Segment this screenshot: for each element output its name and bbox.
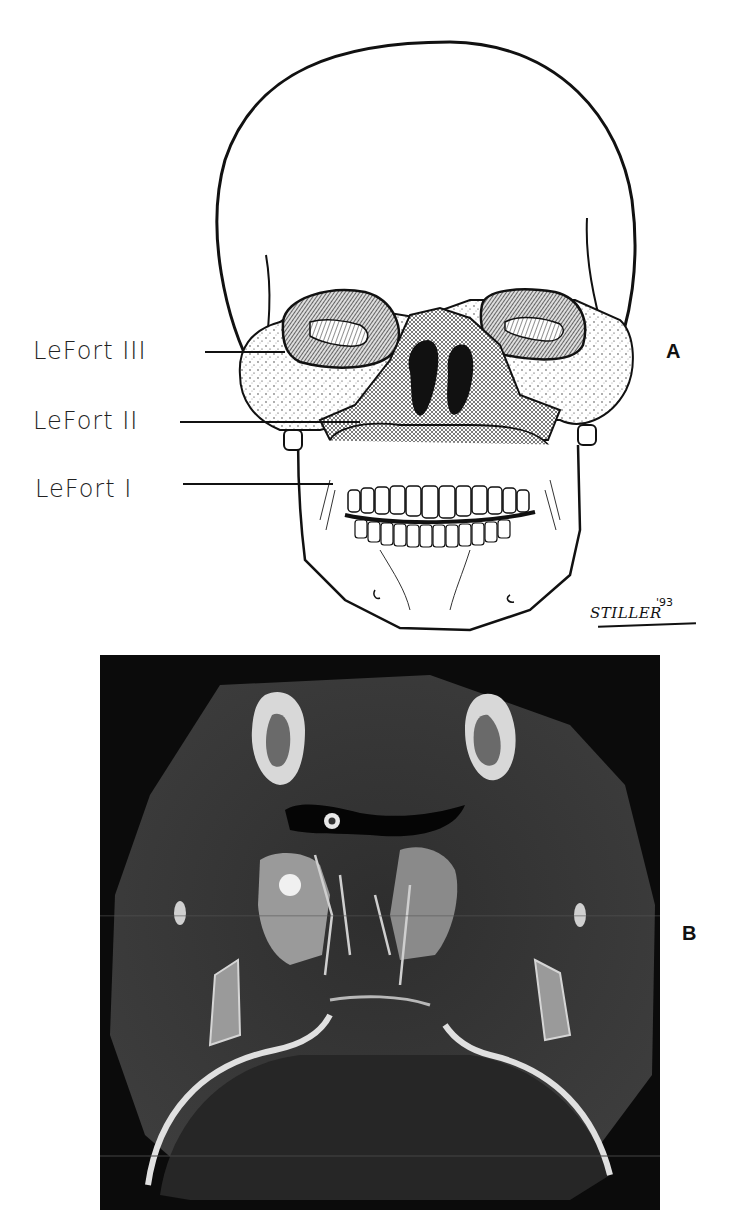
label-lefort-ii: LeFort II <box>33 407 138 435</box>
panel-b-ct-scan <box>100 655 660 1210</box>
figure: LeFort III LeFort II LeFort I A STILLER … <box>0 0 732 1221</box>
leader-line-lefort-ii <box>180 421 360 423</box>
artist-signature: STILLER <box>590 604 662 622</box>
label-lefort-iii: LeFort III <box>33 337 147 365</box>
leader-line-lefort-iii <box>205 351 285 353</box>
signature-year: '93 <box>656 596 673 609</box>
label-lefort-i: LeFort I <box>35 475 132 503</box>
panel-letter-b: B <box>682 922 696 945</box>
ct-scan-image <box>100 655 660 1210</box>
skull-drawing <box>0 0 732 650</box>
leader-line-lefort-i <box>183 483 333 485</box>
panel-letter-a: A <box>666 340 680 363</box>
panel-a-skull-illustration: LeFort III LeFort II LeFort I A STILLER … <box>0 0 732 650</box>
